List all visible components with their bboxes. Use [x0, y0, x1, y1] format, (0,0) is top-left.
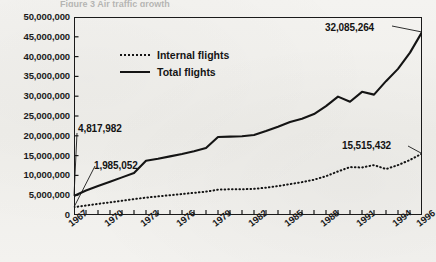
legend-label-total-flights: Total flights: [157, 66, 216, 78]
legend-item-internal-flights: Internal flights: [120, 48, 270, 62]
x-tick-label: 1982: [246, 207, 269, 228]
x-tick-label: 1991: [354, 207, 377, 228]
legend-label-internal-flights: Internal flights: [157, 49, 229, 61]
x-tick-label: 1973: [138, 207, 161, 228]
x-tick-label: 1994: [390, 207, 413, 228]
x-tick-label: 1988: [318, 207, 341, 228]
x-tick-label: 1967: [66, 207, 89, 228]
dotted-line-icon: [120, 50, 150, 60]
x-tick-label: 1976: [174, 207, 197, 228]
x-tick-label: 1979: [210, 207, 233, 228]
legend-item-total-flights: Total flights: [120, 65, 270, 79]
chart-legend: Internal flights Total flights: [120, 48, 270, 82]
line-chart: Figure 3 Air traffic growth 50,000,00045…: [0, 0, 436, 262]
x-tick-label: 1985: [282, 207, 305, 228]
x-axis: 1967197019731976197919821985198819911994…: [0, 0, 436, 262]
solid-line-icon: [120, 67, 150, 77]
x-tick-label: 1996: [414, 207, 436, 228]
x-tick-label: 1970: [102, 207, 125, 228]
